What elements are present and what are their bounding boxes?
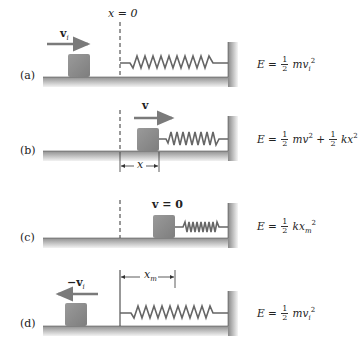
velocity-label-c: v = 0 [152, 198, 183, 211]
equation-c: E = 12 kxm2 [257, 218, 316, 235]
equation-d: E = 12 mvi2 [257, 305, 315, 322]
velocity-label-d: −vi [67, 276, 85, 291]
origin-label: x = 0 [108, 7, 137, 20]
velocity-label-a: vi [60, 27, 69, 42]
block [68, 54, 90, 77]
spring [159, 132, 228, 145]
block [153, 215, 175, 238]
panel-a [43, 42, 238, 87]
displacement-label-xm: xm [144, 268, 157, 283]
spring [175, 222, 228, 232]
spring [120, 56, 228, 68]
block [65, 303, 87, 326]
panel-label-a: (a) [20, 69, 35, 82]
panel-c [43, 203, 238, 248]
panel-label-c: (c) [20, 231, 35, 244]
displacement-label-x: x [137, 158, 143, 171]
panel-label-b: (b) [20, 144, 36, 157]
equation-b: E = 12 mv2 + 12 kx2 [257, 131, 358, 148]
block [137, 128, 159, 151]
velocity-label-b: v [142, 99, 148, 112]
spring [120, 306, 228, 318]
equation-a: E = 12 mvi2 [257, 56, 315, 73]
panel-label-d: (d) [20, 317, 36, 330]
